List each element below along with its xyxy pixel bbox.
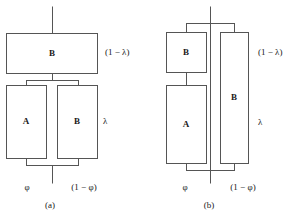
panel-b: B A B (1 − λ) λ φ (1 − φ) (b) <box>167 7 283 210</box>
panel-b-label-one-minus-phi: (1 − φ) <box>230 182 255 192</box>
panel-a-caption: (a) <box>45 200 55 210</box>
panel-b-label-one-minus-lambda: (1 − λ) <box>258 47 282 57</box>
panel-a-label-one-minus-lambda: (1 − λ) <box>105 47 129 57</box>
reliability-block-diagram-figure: B A B (1 − λ) λ φ (1 − φ) (a) <box>0 0 301 220</box>
panel-a-block-top-b-label: B <box>49 48 55 58</box>
panel-a-label-one-minus-phi: (1 − φ) <box>71 182 96 192</box>
panel-b-label-lambda: λ <box>258 117 263 127</box>
panel-b-caption: (b) <box>204 200 215 210</box>
panel-a: B A B (1 − λ) λ φ (1 − φ) (a) <box>7 7 130 210</box>
panel-a-label-phi: φ <box>24 182 29 192</box>
diagram-canvas: B A B (1 − λ) λ φ (1 − φ) (a) <box>0 0 301 220</box>
panel-a-block-b-label: B <box>74 116 80 126</box>
panel-b-block-top-b-label: B <box>183 47 189 57</box>
panel-b-block-tall-b-label: B <box>231 92 237 102</box>
panel-a-label-lambda: λ <box>103 116 108 126</box>
panel-b-label-phi: φ <box>182 182 187 192</box>
panel-b-block-a-label: A <box>183 119 190 129</box>
panel-a-block-a-label: A <box>23 116 30 126</box>
